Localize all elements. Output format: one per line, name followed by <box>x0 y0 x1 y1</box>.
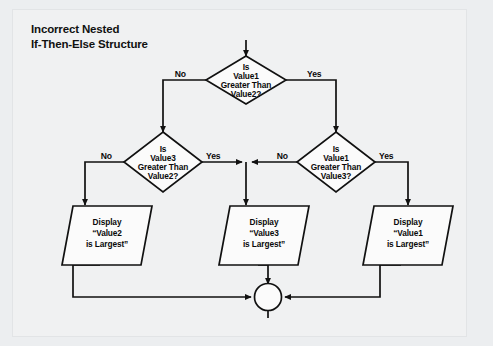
branch-label-decision2-no: No <box>101 151 112 161</box>
branch-label-decision2-yes: Yes <box>206 151 221 161</box>
output-value2-line-2: “Value2 <box>92 228 122 238</box>
edge-decision3-yes-to-output-value1 <box>375 162 408 205</box>
decision-node-value1-vs-value2[interactable]: Is Value1 Greater Than Value2? <box>206 56 286 104</box>
branch-label-decision1-yes: Yes <box>307 69 322 79</box>
decision3-line-4: Value3? <box>321 171 352 181</box>
output-node-value3-is-largest[interactable]: Display “Value3 is Largest” <box>219 206 309 265</box>
output-value3-line-2: “Value3 <box>249 228 279 238</box>
flowchart-canvas: Is Value1 Greater Than Value2? Is Value3… <box>0 0 493 346</box>
decision2-line-4: Value2? <box>148 171 179 181</box>
branch-label-decision1-no: No <box>175 69 186 79</box>
connector-node[interactable] <box>255 284 282 311</box>
output-value1-line-2: “Value1 <box>393 228 423 238</box>
output-node-value1-is-largest[interactable]: Display “Value1 is Largest” <box>363 206 453 265</box>
output-node-value2-is-largest[interactable]: Display “Value2 is Largest” <box>62 206 152 265</box>
output-value3-line-3: is Largest” <box>243 239 285 249</box>
decision-node-value1-vs-value3[interactable]: Is Value1 Greater Than Value3? <box>297 132 375 192</box>
edge-decision2-no-to-output-value2 <box>85 162 124 205</box>
branch-label-decision3-yes: Yes <box>379 151 394 161</box>
flowchart-page: Incorrect Nested If-Then-Else Structure <box>0 0 493 346</box>
edge-output-value1-to-connector <box>285 265 401 297</box>
branch-label-decision3-no: No <box>277 151 288 161</box>
output-value3-line-1: Display <box>250 217 279 227</box>
edge-output-value2-to-connector <box>73 265 251 297</box>
output-value2-line-1: Display <box>93 217 122 227</box>
edge-output-value3-to-connector <box>258 265 268 284</box>
edge-decision1-no-to-decision2 <box>163 80 206 132</box>
decision1-line-4: Value2? <box>231 89 262 99</box>
output-value1-line-3: is Largest” <box>387 239 429 249</box>
decision-node-value3-vs-value2[interactable]: Is Value3 Greater Than Value2? <box>124 132 202 192</box>
output-value2-line-3: is Largest” <box>86 239 128 249</box>
edge-decision1-yes-to-decision3 <box>286 80 336 132</box>
output-value1-line-1: Display <box>394 217 423 227</box>
